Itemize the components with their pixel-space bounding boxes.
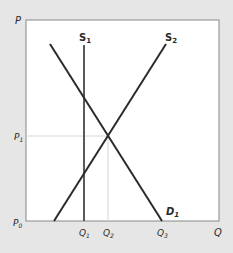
p-axis-label: P xyxy=(15,15,22,26)
q3-label: Q3 xyxy=(157,228,168,239)
p0-label: P0 xyxy=(13,218,22,229)
supply-demand-chart: P Q P0 P1 Q1 Q2 Q3 S1 S2 D1 xyxy=(0,0,233,253)
q1-label: Q1 xyxy=(79,228,90,239)
q2-label: Q2 xyxy=(103,228,114,239)
q-axis-label: Q xyxy=(214,227,222,238)
p1-label: P1 xyxy=(14,132,23,143)
